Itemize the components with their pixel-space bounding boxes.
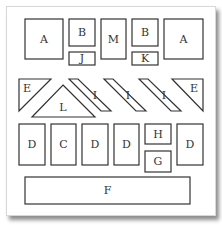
label-l: L: [59, 101, 67, 114]
block-i-3: I: [139, 79, 181, 111]
block-k: K: [132, 52, 158, 65]
label-g: G: [154, 155, 163, 168]
block-m: M: [101, 19, 126, 59]
label-h: H: [153, 128, 163, 141]
label-a-right: A: [179, 33, 189, 46]
label-b-right: B: [141, 26, 149, 39]
block-j: J: [69, 52, 95, 65]
block-f: F: [25, 177, 190, 204]
label-c: C: [59, 138, 67, 151]
block-g: G: [145, 151, 171, 172]
label-i-3: I: [162, 89, 166, 102]
block-d-1: D: [19, 124, 45, 165]
block-h: H: [145, 124, 171, 144]
label-m: M: [108, 33, 119, 46]
label-e-left: E: [23, 82, 31, 95]
block-d-4: D: [177, 124, 203, 165]
label-e-right: E: [190, 82, 198, 95]
label-d-2: D: [91, 138, 100, 151]
label-d-4: D: [186, 138, 195, 151]
label-b-left: B: [78, 26, 86, 39]
label-i-2: I: [126, 89, 130, 102]
block-c: C: [51, 124, 76, 165]
block-b-left: B: [69, 19, 95, 46]
diagram-canvas: A B J M B K A E L I I I: [0, 0, 222, 225]
label-d-1: D: [28, 138, 37, 151]
label-f: F: [104, 184, 112, 197]
label-i-1: I: [93, 89, 97, 102]
label-j: J: [79, 52, 84, 65]
block-d-2: D: [82, 124, 108, 165]
block-i-2: I: [104, 79, 146, 111]
block-b-right: B: [132, 19, 158, 46]
block-d-3: D: [114, 124, 139, 165]
block-a-left: A: [25, 19, 63, 59]
label-d-3: D: [122, 138, 131, 151]
block-a-right: A: [164, 19, 203, 59]
label-k: K: [141, 52, 150, 65]
label-a-left: A: [39, 33, 49, 46]
